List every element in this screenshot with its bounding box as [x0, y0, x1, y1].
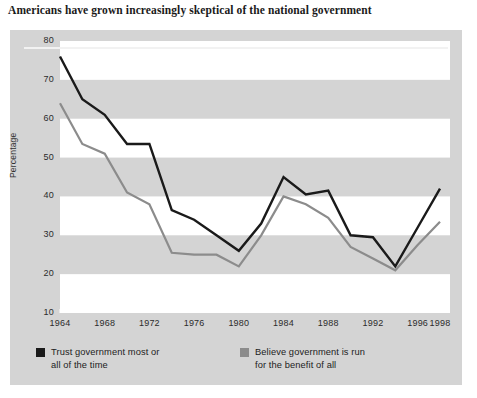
- legend-swatch-trust: [36, 348, 45, 357]
- x-tick-label: 1992: [353, 318, 393, 328]
- chart-figure: Americans have grown increasingly skepti…: [0, 0, 477, 398]
- legend-item-label: Believe government is run for the benefi…: [255, 346, 365, 371]
- chart-panel: Percentage 1020304050607080 196419681972…: [10, 30, 462, 385]
- x-tick-label: 1988: [308, 318, 348, 328]
- y-tick-label: 10: [28, 307, 54, 317]
- y-tick-label: 20: [28, 268, 54, 278]
- y-tick-label: 60: [28, 113, 54, 123]
- x-tick-label: 1968: [85, 318, 125, 328]
- plot-area: [10, 30, 462, 385]
- y-tick-label: 40: [28, 190, 54, 200]
- x-tick-label: 1984: [264, 318, 304, 328]
- x-tick-label: 1998: [420, 318, 460, 328]
- y-tick-label: 30: [28, 229, 54, 239]
- legend-item[interactable]: Trust government most or all of the time: [36, 346, 160, 371]
- x-tick-label: 1972: [129, 318, 169, 328]
- legend-swatch-benefit: [240, 348, 249, 357]
- legend-item-label: Trust government most or all of the time: [51, 346, 160, 371]
- chart-title: Americans have grown increasingly skepti…: [8, 4, 468, 16]
- legend-separator: [24, 47, 448, 49]
- series-lines: [60, 57, 440, 271]
- x-tick-label: 1964: [40, 318, 80, 328]
- x-tick-label: 1976: [174, 318, 214, 328]
- y-tick-label: 50: [28, 152, 54, 162]
- y-tick-label: 80: [28, 35, 54, 45]
- chart-legend: Trust government most or all of the time…: [36, 346, 456, 386]
- y-tick-label: 70: [28, 74, 54, 84]
- plot-band: [60, 119, 450, 158]
- plot-band: [60, 274, 450, 313]
- x-tick-label: 1980: [219, 318, 259, 328]
- legend-item[interactable]: Believe government is run for the benefi…: [240, 346, 365, 371]
